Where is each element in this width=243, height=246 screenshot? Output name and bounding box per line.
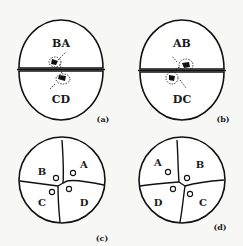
cell-label: BA	[52, 37, 70, 50]
cell-label: D	[154, 197, 163, 208]
panel-b: AB DC (b)	[138, 20, 230, 124]
cell-label: B	[196, 159, 204, 170]
cell-label: A	[153, 157, 162, 168]
panel-caption: (d)	[213, 222, 226, 232]
panel-a: BA CD (a)	[17, 20, 110, 124]
cell-label: CD	[52, 93, 71, 106]
panel-d: A B D C (d)	[139, 137, 227, 232]
cell-label: C	[38, 197, 46, 208]
cell-label: D	[80, 197, 89, 208]
cell-label: A	[79, 159, 88, 170]
nucleus-icon	[184, 175, 189, 180]
cell-label: B	[38, 166, 46, 177]
cell-label: AB	[172, 37, 191, 50]
nucleus-icon	[49, 189, 54, 194]
cell-label: DC	[173, 93, 192, 106]
cell-label: C	[199, 197, 207, 208]
nucleus-icon	[170, 186, 175, 191]
panel-c: B A C D (c)	[19, 137, 108, 243]
nucleus-icon	[53, 175, 58, 180]
embryo-cleavage-diagram: BA CD (a) AB DC (b) B A C D	[0, 0, 243, 246]
nucleus-icon	[165, 169, 170, 174]
nucleus-icon	[66, 186, 71, 191]
panel-caption: (c)	[96, 233, 109, 243]
panel-caption: (b)	[216, 114, 229, 124]
panel-caption: (a)	[97, 114, 110, 124]
nucleus-icon	[70, 170, 75, 175]
nucleus-icon	[187, 191, 192, 196]
